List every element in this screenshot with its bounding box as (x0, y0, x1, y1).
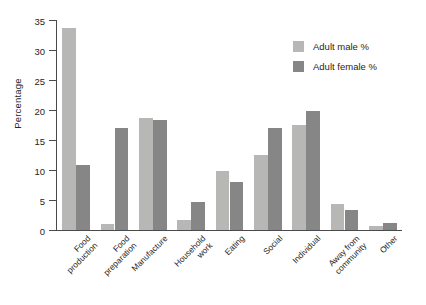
bar (139, 118, 153, 230)
bar (76, 165, 90, 230)
y-tick-30: 30 (49, 50, 56, 51)
bar-group (139, 20, 167, 230)
bar-group (254, 20, 282, 230)
bar-group (216, 20, 244, 230)
y-tick-label: 20 (34, 105, 45, 116)
bar (345, 210, 359, 230)
y-tick-0: 0 (49, 230, 56, 231)
bar (191, 202, 205, 230)
legend-swatch-icon-male (293, 41, 304, 52)
bar (101, 224, 115, 230)
y-tick-25: 25 (49, 80, 56, 81)
y-axis-line (56, 20, 57, 231)
legend-label-male: Adult male % (313, 41, 369, 52)
y-tick-label: 25 (34, 75, 45, 86)
y-axis-label: Percentage (12, 54, 23, 154)
legend-label-female: Adult female % (313, 61, 377, 72)
y-tick-label: 10 (34, 165, 45, 176)
bar (230, 182, 244, 230)
y-tick-15: 15 (49, 140, 56, 141)
bar (369, 226, 383, 230)
y-tick-35: 35 (49, 20, 56, 21)
bar (62, 28, 76, 230)
bar (383, 223, 397, 230)
bar-chart: Percentage 05101520253035 Food productio… (0, 0, 426, 305)
y-tick-label: 5 (40, 195, 45, 206)
legend-swatch-icon-female (293, 61, 304, 72)
bar (115, 128, 129, 230)
bar-group (177, 20, 205, 230)
y-tick-label: 35 (34, 15, 45, 26)
bar (292, 125, 306, 230)
bar (153, 120, 167, 230)
bar (177, 220, 191, 230)
bar-group (101, 20, 129, 230)
legend-item-female: Adult female % (293, 61, 377, 72)
bar (331, 204, 345, 230)
legend-item-male: Adult male % (293, 41, 377, 52)
y-tick-label: 30 (34, 45, 45, 56)
y-tick-20: 20 (49, 110, 56, 111)
y-tick-5: 5 (49, 200, 56, 201)
x-axis-line (56, 230, 402, 231)
bar (306, 111, 320, 230)
y-tick-label: 15 (34, 135, 45, 146)
bar (254, 155, 268, 230)
x-axis-tick-label: Social (213, 234, 285, 305)
bar (268, 128, 282, 230)
y-tick-10: 10 (49, 170, 56, 171)
bar-group (62, 20, 90, 230)
bar (216, 171, 230, 230)
y-tick-label: 0 (40, 225, 45, 236)
legend: Adult male % Adult female % (293, 41, 377, 81)
